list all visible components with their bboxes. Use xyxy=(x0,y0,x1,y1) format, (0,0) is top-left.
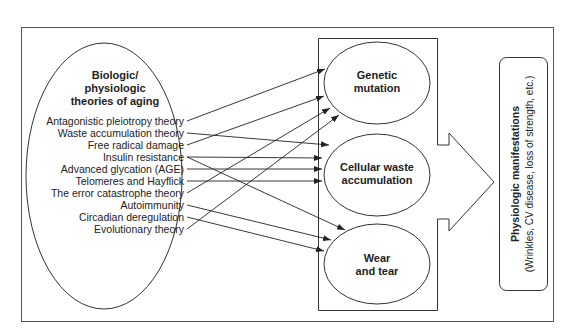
arrow-evolutionary-to-genetic xyxy=(187,115,339,229)
arrow-antagonistic-to-genetic xyxy=(187,69,325,121)
cellular-waste-label-2: accumulation xyxy=(342,174,413,186)
theory-label: Circadian deregulation xyxy=(79,211,184,223)
wear-tear-label-1: Wear xyxy=(364,252,391,264)
arrow-insulin-to-cellular xyxy=(187,157,322,158)
genetic-mutation-label-1: Genetic xyxy=(357,69,397,81)
theory-label: Autoimmunity xyxy=(120,199,184,211)
theory-label: Insulin resistance xyxy=(103,151,184,163)
theory-label: The error catastrophe theory xyxy=(51,187,185,199)
theory-label: Advanced glycation (AGE) xyxy=(61,163,184,175)
wear-tear-label-2: and tear xyxy=(356,265,400,277)
arrow-freeradical-to-genetic xyxy=(187,96,324,145)
outcome-subtitle: (Wrinkles, CV disease, loss of strength,… xyxy=(524,76,535,273)
outcome-title: Physiologic manifestations xyxy=(509,106,521,242)
cellular-waste-label-1: Cellular waste xyxy=(340,161,414,173)
theories-title-1: Biologic/ xyxy=(92,69,138,81)
theory-label: Evolutionary theory xyxy=(94,223,185,235)
theory-label: Waste accumulation theory xyxy=(58,127,185,139)
aging-theories-diagram: Biologic/ physiologic theories of aging … xyxy=(0,0,576,333)
theory-label: Telomeres and Hayflick xyxy=(75,175,184,187)
wear-tear-ellipse xyxy=(324,224,430,304)
arrow-error-to-genetic xyxy=(187,108,330,193)
theory-label: Antagonistic pleiotropy theory xyxy=(46,115,184,127)
genetic-mutation-label-2: mutation xyxy=(354,82,401,94)
theory-label: Free radical damage xyxy=(88,139,184,151)
theories-title-2: physiologic xyxy=(84,82,145,94)
theories-title-3: theories of aging xyxy=(71,95,160,107)
